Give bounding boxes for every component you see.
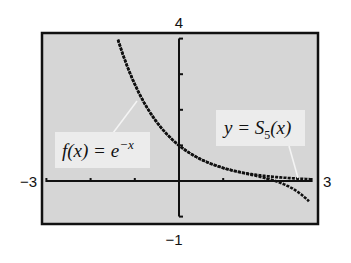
xmin-label: −3 xyxy=(20,173,37,190)
chart: 4 −1 −3 3 f(x) = e−x y = S5(x) xyxy=(0,0,351,263)
s5-label: y = S5(x) xyxy=(216,110,305,146)
ymax-label: 4 xyxy=(175,14,183,31)
ymin-label: −1 xyxy=(165,231,182,248)
f-label: f(x) = e−x xyxy=(55,132,150,168)
xmax-label: 3 xyxy=(323,173,331,190)
